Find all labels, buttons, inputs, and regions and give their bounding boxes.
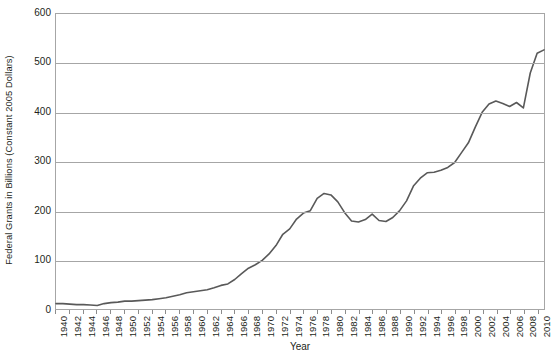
y-tick-label-400: 400 <box>21 107 51 117</box>
x-tick-mark-2004 <box>497 310 498 314</box>
x-tick-mark-1998 <box>455 310 456 314</box>
x-tick-label-2006: 2006 <box>515 316 525 337</box>
x-tick-mark-1972 <box>276 310 277 314</box>
x-axis: 1940194219441946194819501952195419561958… <box>55 310 545 362</box>
x-tick-mark-1960 <box>193 310 194 314</box>
x-tick-label-1996: 1996 <box>446 316 456 337</box>
x-tick-label-1966: 1966 <box>239 316 249 337</box>
x-tick-label-1976: 1976 <box>308 316 318 337</box>
plot-area <box>55 13 545 310</box>
x-tick-label-2000: 2000 <box>473 316 483 337</box>
x-tick-label-2008: 2008 <box>528 316 538 337</box>
x-tick-mark-1962 <box>207 310 208 314</box>
x-tick-label-1974: 1974 <box>294 316 304 337</box>
x-tick-mark-1950 <box>124 310 125 314</box>
x-tick-mark-1946 <box>96 310 97 314</box>
x-tick-label-1970: 1970 <box>266 316 276 337</box>
x-tick-mark-1982 <box>345 310 346 314</box>
x-tick-label-2002: 2002 <box>487 316 497 337</box>
y-tick-label-0: 0 <box>21 305 51 315</box>
x-tick-mark-1968 <box>248 310 249 314</box>
y-axis-title: Federal Grants in Billions (Constant 200… <box>0 0 18 320</box>
x-tick-mark-1958 <box>179 310 180 314</box>
x-tick-mark-1956 <box>165 310 166 314</box>
x-tick-label-1952: 1952 <box>142 316 152 337</box>
x-axis-title: Year <box>55 341 545 352</box>
x-tick-label-1954: 1954 <box>156 316 166 337</box>
x-tick-mark-1940 <box>55 310 56 314</box>
gridline-200 <box>56 212 544 213</box>
x-tick-label-1988: 1988 <box>390 316 400 337</box>
x-tick-label-1958: 1958 <box>183 316 193 337</box>
x-tick-mark-1988 <box>386 310 387 314</box>
x-tick-mark-2002 <box>483 310 484 314</box>
y-axis-tick-labels: 0100200300400500600 <box>18 0 51 330</box>
x-tick-label-1946: 1946 <box>101 316 111 337</box>
gridline-500 <box>56 63 544 64</box>
x-tick-label-2004: 2004 <box>501 316 511 337</box>
x-tick-label-1992: 1992 <box>418 316 428 337</box>
x-tick-mark-1990 <box>400 310 401 314</box>
y-tick-label-600: 600 <box>21 8 51 18</box>
x-tick-mark-1944 <box>83 310 84 314</box>
y-tick-label-300: 300 <box>21 156 51 166</box>
x-tick-mark-1996 <box>441 310 442 314</box>
x-tick-mark-1986 <box>372 310 373 314</box>
y-tick-label-500: 500 <box>21 57 51 67</box>
x-tick-label-1972: 1972 <box>280 316 290 337</box>
series-line-federal-grants <box>56 50 544 306</box>
x-tick-mark-1954 <box>152 310 153 314</box>
x-tick-label-1950: 1950 <box>128 316 138 337</box>
y-tick-label-200: 200 <box>21 206 51 216</box>
x-tick-mark-1970 <box>262 310 263 314</box>
gridline-100 <box>56 261 544 262</box>
x-tick-label-1986: 1986 <box>377 316 387 337</box>
x-tick-label-1940: 1940 <box>59 316 69 337</box>
line-chart: Federal Grants in Billions (Constant 200… <box>0 0 555 362</box>
x-tick-mark-1974 <box>290 310 291 314</box>
x-tick-label-1956: 1956 <box>170 316 180 337</box>
x-tick-label-1968: 1968 <box>252 316 262 337</box>
x-tick-mark-1964 <box>221 310 222 314</box>
x-tick-label-1964: 1964 <box>225 316 235 337</box>
x-tick-label-1978: 1978 <box>321 316 331 337</box>
x-tick-label-1960: 1960 <box>197 316 207 337</box>
x-tick-mark-1952 <box>138 310 139 314</box>
x-tick-mark-2006 <box>510 310 511 314</box>
x-tick-mark-2008 <box>524 310 525 314</box>
x-tick-mark-1980 <box>331 310 332 314</box>
x-tick-mark-1992 <box>414 310 415 314</box>
x-tick-mark-1976 <box>303 310 304 314</box>
x-tick-mark-1994 <box>428 310 429 314</box>
x-tick-label-1990: 1990 <box>404 316 414 337</box>
x-tick-label-2010: 2010 <box>542 316 552 337</box>
x-tick-label-1982: 1982 <box>349 316 359 337</box>
gridline-400 <box>56 113 544 114</box>
x-tick-mark-1978 <box>317 310 318 314</box>
x-tick-label-1984: 1984 <box>363 316 373 337</box>
x-tick-mark-1984 <box>359 310 360 314</box>
x-tick-mark-1948 <box>110 310 111 314</box>
x-tick-label-1998: 1998 <box>459 316 469 337</box>
x-tick-label-1962: 1962 <box>211 316 221 337</box>
x-tick-label-1980: 1980 <box>335 316 345 337</box>
x-tick-mark-2010 <box>538 310 539 314</box>
x-tick-label-1994: 1994 <box>432 316 442 337</box>
gridline-300 <box>56 162 544 163</box>
y-tick-label-100: 100 <box>21 255 51 265</box>
x-tick-label-1948: 1948 <box>114 316 124 337</box>
x-tick-mark-1966 <box>234 310 235 314</box>
x-tick-label-1944: 1944 <box>87 316 97 337</box>
x-tick-mark-2000 <box>469 310 470 314</box>
x-tick-label-1942: 1942 <box>73 316 83 337</box>
y-axis-title-text: Federal Grants in Billions (Constant 200… <box>4 55 14 265</box>
x-tick-mark-1942 <box>69 310 70 314</box>
